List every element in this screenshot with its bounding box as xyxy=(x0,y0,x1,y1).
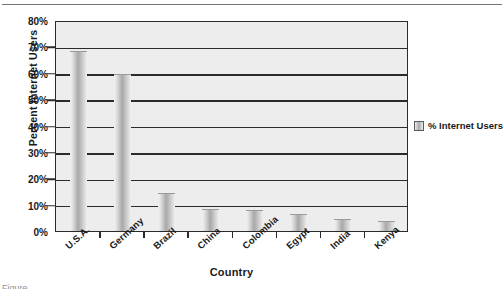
y-tick-label: 50% xyxy=(4,95,48,106)
y-tick-mark xyxy=(47,179,55,181)
y-tick-label: 70% xyxy=(4,42,48,53)
x-tick-mark xyxy=(143,232,145,238)
x-tick-mark xyxy=(232,232,234,238)
y-tick-label: 30% xyxy=(4,147,48,158)
y-tick-label: 10% xyxy=(4,200,48,211)
bar-germany xyxy=(114,74,131,231)
bar-u-s-a xyxy=(70,51,87,231)
y-tick-mark xyxy=(47,73,55,75)
y-tick-label: 80% xyxy=(4,16,48,27)
cut-off-caption: Figure ... xyxy=(2,283,472,289)
y-tick-mark xyxy=(47,152,55,154)
y-tick-label: 60% xyxy=(4,68,48,79)
y-tick-label: 20% xyxy=(4,174,48,185)
y-tick-mark xyxy=(47,47,55,49)
gridline xyxy=(56,127,407,129)
y-tick-label: 0% xyxy=(4,227,48,238)
gridline xyxy=(56,206,407,208)
x-tick-mark xyxy=(320,232,322,238)
gridline xyxy=(56,153,407,155)
gridline xyxy=(56,74,407,76)
y-tick-mark xyxy=(47,126,55,128)
y-tick-mark xyxy=(47,205,55,207)
x-tick-mark xyxy=(99,232,101,238)
bar-brazil xyxy=(158,193,175,231)
gridline xyxy=(56,100,407,102)
page-rule-top xyxy=(2,4,502,5)
legend-swatch-icon xyxy=(414,121,424,131)
chart-legend: % Internet Users xyxy=(414,120,503,131)
x-tick-mark xyxy=(276,232,278,238)
x-tick-mark xyxy=(187,232,189,238)
x-tick-mark xyxy=(364,232,366,238)
plot-inner xyxy=(56,22,407,231)
legend-label: % Internet Users xyxy=(428,120,503,131)
bar-chart-figure: Percent Internet Users 80% 70% 60% 50% 4… xyxy=(0,0,504,289)
x-axis-title: Country xyxy=(55,266,408,278)
gridline xyxy=(56,180,407,182)
y-tick-mark xyxy=(47,99,55,101)
gridline xyxy=(56,48,407,50)
y-tick-label: 40% xyxy=(4,121,48,132)
plot-area xyxy=(55,21,408,232)
